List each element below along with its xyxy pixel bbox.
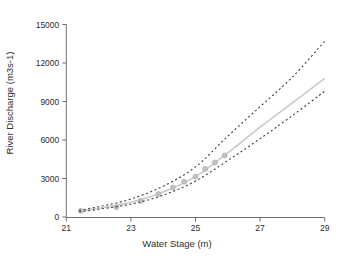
y-tick-label: 6000	[40, 135, 59, 145]
y-axis-title: River Discharge (m3s-1)	[4, 52, 15, 155]
observation-point	[193, 174, 198, 179]
y-tick-label: 9000	[40, 97, 59, 107]
river-discharge-chart: 212325272903000600090001200015000 Water …	[0, 0, 342, 261]
y-tick-label: 15000	[36, 20, 60, 30]
x-tick-label: 21	[62, 223, 72, 233]
observation-point	[182, 179, 187, 184]
observation-point	[156, 191, 161, 196]
x-tick-label: 25	[191, 223, 201, 233]
y-tick-label: 3000	[40, 174, 59, 184]
x-tick-label: 23	[126, 223, 136, 233]
series-layer	[78, 41, 324, 213]
upper-confidence-limit-line	[79, 41, 325, 210]
observation-point	[170, 185, 175, 190]
x-tick-label: 27	[255, 223, 265, 233]
observation-point	[203, 166, 208, 171]
observation-point	[78, 208, 83, 213]
axes-layer: 212325272903000600090001200015000	[36, 20, 330, 234]
rating-curve-line	[79, 78, 325, 211]
lower-confidence-limit-line	[79, 91, 325, 212]
observation-point	[212, 160, 217, 165]
rating-curve-figure: 212325272903000600090001200015000 Water …	[0, 0, 342, 261]
x-axis-title: Water Stage (m)	[142, 238, 211, 249]
observation-point	[222, 153, 227, 158]
y-tick-label: 12000	[36, 58, 60, 68]
y-tick-label: 0	[55, 212, 60, 222]
x-tick-label: 29	[320, 223, 330, 233]
